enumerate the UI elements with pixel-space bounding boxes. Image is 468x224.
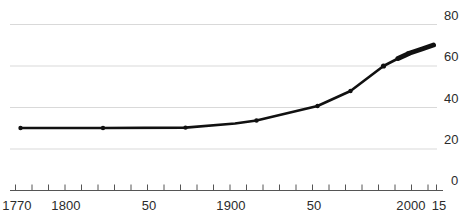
x-tick-label-2015: 15 <box>428 199 450 212</box>
gridlines <box>10 25 437 150</box>
x-tick-label-1770: 1770 <box>0 199 34 212</box>
x-tick-label-1950: 50 <box>303 199 325 212</box>
data-point <box>348 89 352 93</box>
y-tick-label-80: 80 <box>444 9 459 22</box>
data-point <box>101 126 105 130</box>
x-tick-label-1900: 1900 <box>214 199 248 212</box>
data-point <box>254 118 258 122</box>
data-point <box>315 104 319 108</box>
x-tick-label-1800: 1800 <box>49 199 83 212</box>
data-series-1 <box>18 45 433 130</box>
y-tick-label-40: 40 <box>444 92 459 105</box>
series-markers <box>18 51 410 130</box>
x-axis-ticks <box>16 185 437 191</box>
y-tick-label-60: 60 <box>444 50 459 63</box>
data-point <box>183 125 187 129</box>
x-tick-label-1850: 50 <box>138 199 160 212</box>
y-tick-label-0: 0 <box>451 174 458 187</box>
chart-plot-area <box>0 0 468 224</box>
data-point <box>406 51 410 55</box>
line-chart: 80 60 40 20 0 1770 1800 50 1900 50 2000 … <box>0 0 468 224</box>
data-point <box>18 126 22 130</box>
x-tick-label-2000: 2000 <box>394 199 428 212</box>
series-line-thickened-tail <box>398 45 434 59</box>
y-tick-label-20: 20 <box>444 133 459 146</box>
data-point <box>381 63 386 68</box>
series-line <box>21 45 434 128</box>
